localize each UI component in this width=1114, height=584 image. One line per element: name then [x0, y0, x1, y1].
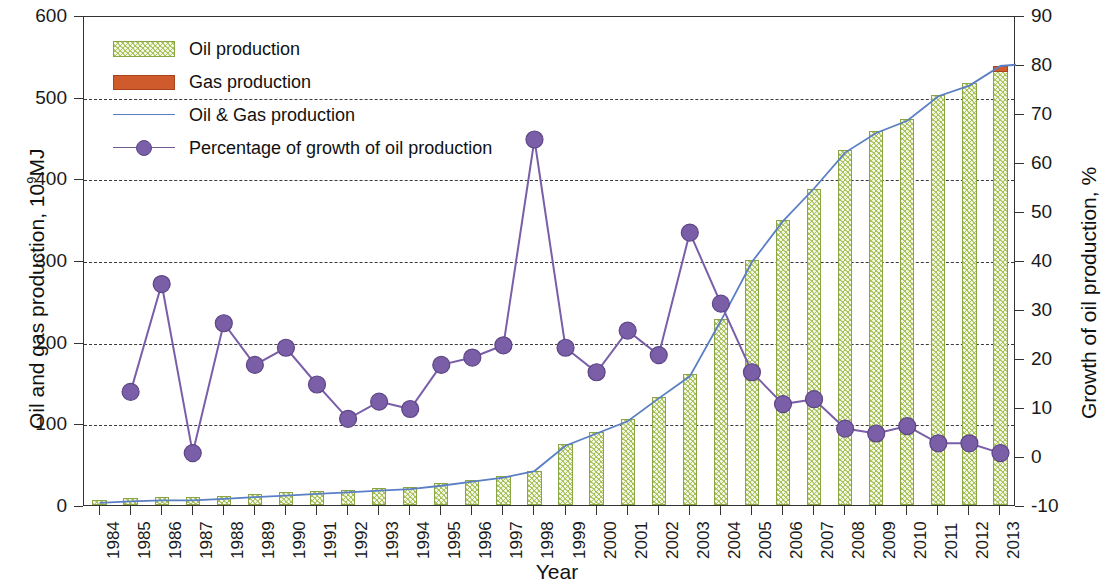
x-axis-tick-label: 1997: [508, 521, 525, 559]
growth-percentage-marker: [246, 356, 263, 373]
x-axis-tick-mark: [720, 506, 721, 515]
y-axis-tick-label: 600: [35, 6, 67, 25]
secondary-y-axis-tick-label: 30: [1031, 300, 1052, 319]
secondary-y-axis-tick-mark: [1015, 506, 1024, 507]
x-axis-tick-mark: [999, 506, 1000, 515]
legend-label-oil-gas-production: Oil & Gas production: [189, 106, 355, 124]
x-axis-tick-label: 1998: [539, 521, 556, 559]
secondary-y-axis-tick-label: 10: [1031, 398, 1052, 417]
x-axis-tick-mark: [533, 506, 534, 515]
x-axis-tick-mark: [502, 506, 503, 515]
x-axis-tick-mark: [99, 506, 100, 515]
x-axis-tick-mark: [409, 506, 410, 515]
growth-percentage-marker: [743, 364, 760, 381]
secondary-y-axis-tick-label: 50: [1031, 202, 1052, 221]
x-axis-tick-mark: [347, 506, 348, 515]
x-axis-tick-label: 1988: [229, 521, 246, 559]
y-axis-title: Oil and gas production, 109MJ: [24, 149, 49, 429]
x-axis-tick-label: 2000: [602, 521, 619, 559]
x-axis-tick-mark: [937, 506, 938, 515]
growth-percentage-marker: [277, 339, 294, 356]
x-axis-tick-label: 1990: [291, 521, 308, 559]
growth-percentage-marker: [619, 322, 636, 339]
x-axis-tick-mark: [440, 506, 441, 515]
growth-percentage-marker: [122, 383, 139, 400]
x-axis-tick-mark: [161, 506, 162, 515]
x-axis-tick-mark: [316, 506, 317, 515]
x-axis-tick-label: 1994: [415, 521, 432, 559]
secondary-y-axis-tick-mark: [1015, 16, 1024, 17]
x-axis-tick-mark: [596, 506, 597, 515]
y-axis-tick-label: 200: [35, 333, 67, 352]
y-axis-tick-label: 300: [35, 251, 67, 270]
x-axis-tick-label: 2013: [1005, 521, 1022, 559]
legend-label-gas-production: Gas production: [189, 73, 311, 91]
secondary-y-axis-tick-label: -10: [1031, 496, 1058, 515]
secondary-y-axis-tick-label: 40: [1031, 251, 1052, 270]
x-axis-tick-label: 1989: [260, 521, 277, 559]
growth-percentage-marker: [215, 315, 232, 332]
x-axis-tick-label: 2010: [912, 521, 929, 559]
growth-percentage-marker: [433, 356, 450, 373]
y-axis-tick-label: 100: [35, 414, 67, 433]
x-axis-tick-mark: [192, 506, 193, 515]
x-axis-tick-label: 1999: [571, 521, 588, 559]
growth-percentage-marker: [992, 445, 1009, 462]
gas-production-swatch: [113, 75, 175, 90]
growth-percentage-marker: [402, 401, 419, 418]
y-axis-tick-mark: [74, 506, 83, 507]
x-axis-tick-label: 1986: [167, 521, 184, 559]
secondary-y-axis-tick-mark: [1015, 310, 1024, 311]
secondary-y-axis-tick-label: 70: [1031, 104, 1052, 123]
y-axis-tick-mark: [74, 261, 83, 262]
x-axis-tick-label: 1993: [384, 521, 401, 559]
secondary-y-axis-tick-label: 60: [1031, 153, 1052, 172]
x-axis-tick-mark: [565, 506, 566, 515]
x-axis-tick-label: 2008: [850, 521, 867, 559]
x-axis-tick-mark: [813, 506, 814, 515]
y-axis-tick-mark: [74, 179, 83, 180]
x-axis-tick-label: 1996: [477, 521, 494, 559]
y-axis-tick-mark: [74, 424, 83, 425]
growth-percentage-line: [131, 140, 1001, 454]
growth-percentage-marker: [712, 295, 729, 312]
x-axis-tick-mark: [658, 506, 659, 515]
oil-production-swatch: [113, 41, 175, 57]
oil-gas-line-swatch: [113, 107, 175, 123]
secondary-y-axis-tick-mark: [1015, 359, 1024, 360]
x-axis-tick-label: 2001: [633, 521, 650, 559]
secondary-y-axis-tick-label: 80: [1031, 55, 1052, 74]
x-axis-title: Year: [0, 560, 1114, 584]
growth-percentage-marker: [184, 445, 201, 462]
x-axis-tick-mark: [285, 506, 286, 515]
growth-percentage-marker: [650, 347, 667, 364]
x-axis-tick-label: 1995: [446, 521, 463, 559]
legend-item-oil-gas-production: Oil & Gas production: [113, 98, 493, 131]
legend-label-oil-production: Oil production: [189, 40, 300, 58]
x-axis-tick-label: 2003: [695, 521, 712, 559]
growth-percentage-marker: [495, 337, 512, 354]
growth-percentage-marker: [526, 131, 543, 148]
secondary-y-axis-tick-label: 0: [1031, 447, 1042, 466]
secondary-y-axis-tick-label: 90: [1031, 6, 1052, 25]
x-axis-tick-mark: [968, 506, 969, 515]
growth-percentage-marker: [961, 435, 978, 452]
x-axis-tick-mark: [471, 506, 472, 515]
growth-percentage-marker: [340, 410, 357, 427]
growth-percentage-marker: [153, 276, 170, 293]
x-axis-tick-label: 2009: [881, 521, 898, 559]
growth-percentage-marker: [309, 376, 326, 393]
y-axis-tick-label: 0: [56, 496, 67, 515]
x-axis-tick-mark: [130, 506, 131, 515]
growth-percentage-marker: [899, 418, 916, 435]
legend-label-growth-percentage: Percentage of growth of oil production: [189, 139, 492, 157]
y-axis-tick-label: 500: [35, 88, 67, 107]
x-axis-tick-label: 2004: [726, 521, 743, 559]
x-axis-tick-label: 1991: [322, 521, 339, 559]
secondary-y-axis-title: Growth of oil production, %: [1077, 167, 1101, 419]
x-axis-tick-label: 1984: [105, 521, 122, 559]
secondary-y-axis-tick-mark: [1015, 261, 1024, 262]
x-axis-tick-label: 2006: [788, 521, 805, 559]
secondary-y-axis-tick-mark: [1015, 212, 1024, 213]
y-axis-tick-mark: [74, 98, 83, 99]
